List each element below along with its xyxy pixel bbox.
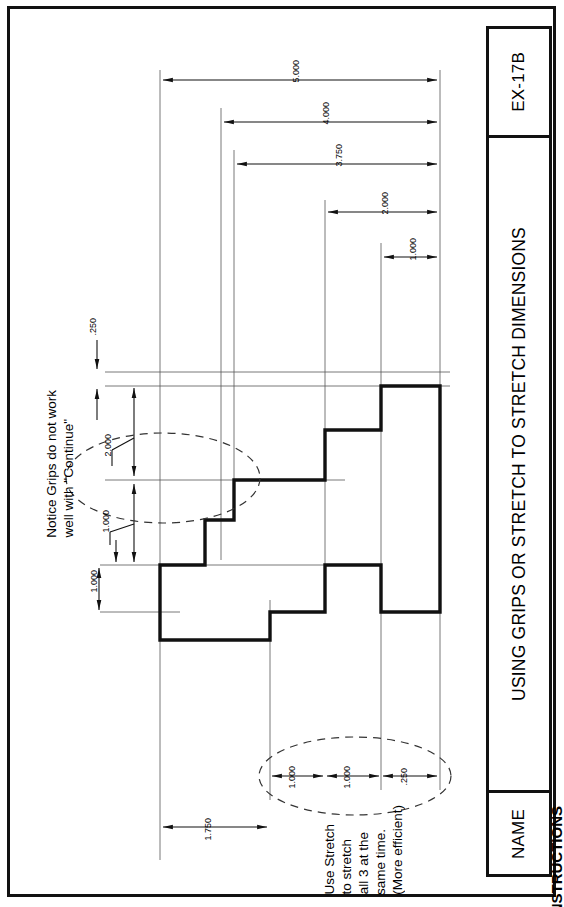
drawing-sheet: 5.000 4.000 3.750 2.000 1.000 .250 2.000…: [0, 0, 564, 907]
title-block: EX-17B USING GRIPS OR STRETCH TO STRETCH…: [486, 26, 552, 877]
stretch-note-line-4: same time.: [373, 829, 388, 895]
dimension-label-250-b3: .250: [400, 768, 409, 786]
dimension-label-2000-top: 2.000: [381, 192, 390, 215]
grips-note-line-1: Notice Grips do not work: [44, 390, 59, 538]
dimension-label-4000: 4.000: [322, 102, 331, 125]
dimension-label-1000-top: 1.000: [409, 238, 418, 261]
title-block-cell-name: NAME: [489, 793, 549, 874]
grips-highlight-ellipse: [66, 433, 260, 523]
dimension-label-1000-low: 1.000: [90, 570, 99, 593]
title-block-cell-title: USING GRIPS OR STRETCH TO STRETCH DIMENS…: [489, 138, 549, 790]
drawing-geometry: [0, 0, 564, 907]
dimension-label-5000: 5.000: [292, 60, 301, 83]
dimension-label-1000-b1: 1.000: [288, 766, 297, 789]
dimension-lines-left: [97, 340, 134, 610]
dimension-label-1000-b2: 1.000: [343, 766, 352, 789]
stretch-note-line-3: all 3 at the: [356, 832, 371, 894]
instructions-text: INSTRUCTIONS: [549, 806, 564, 907]
grips-note: Notice Grips do not workwell with "Conti…: [42, 390, 76, 542]
title-block-cell-number: EX-17B: [489, 29, 549, 135]
name-field-label: NAME: [509, 809, 529, 859]
drawing-title: USING GRIPS OR STRETCH TO STRETCH DIMENS…: [509, 227, 530, 701]
stretch-note-line-2: to stretch: [339, 839, 354, 895]
dimension-label-1000-mid: 1.000: [102, 510, 111, 533]
instructions-label: INSTRUCTIONS: [549, 806, 564, 907]
extension-lines: [100, 70, 450, 860]
dimension-label-1750: 1.750: [204, 818, 213, 841]
dimension-label-2000-mid: 2.000: [104, 434, 113, 457]
dimension-lines-top: [163, 80, 437, 257]
grips-note-line-2: well with "Continue": [61, 419, 76, 537]
stretch-note-line-5: (More efficient): [390, 805, 405, 895]
dimension-label-3750: 3.750: [335, 144, 344, 167]
dimension-label-250-left: .250: [89, 318, 98, 336]
drawing-number: EX-17B: [509, 52, 529, 112]
stepped-profile: [160, 386, 440, 640]
stretch-note-line-1: Use Stretch: [322, 824, 337, 895]
stretch-note: Use Stretchto stretchall 3 at thesame ti…: [320, 805, 405, 899]
